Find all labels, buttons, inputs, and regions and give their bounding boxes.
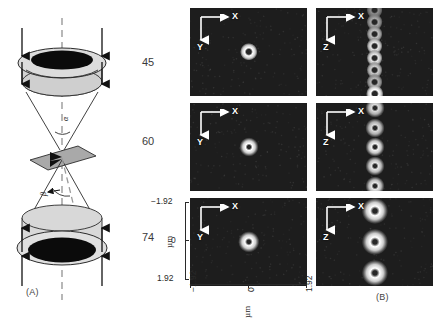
psf-image-45-xz: XZ (316, 8, 433, 96)
psf-image-45-xy: XY (190, 8, 307, 96)
y-axis-unit: µm (164, 236, 174, 248)
lens-schematic-svg: α β (0, 0, 180, 329)
aperture-label-74: 74 (142, 231, 154, 243)
bottom-objective-lens (17, 205, 107, 265)
x-tick-max: 1.92 (304, 275, 314, 292)
psf-image-60-xy: XY (190, 103, 307, 191)
psf-spot (365, 138, 384, 157)
sample-plane (30, 146, 96, 170)
aperture-label-60: 60 (142, 135, 154, 147)
psf-image-60-xz: XZ (316, 103, 433, 191)
panel-b-psf-grid: XYXZXYXZXYXZ −1.92 0 1.92 µm −1.92 0 1.9… (180, 0, 425, 329)
psf-spot (239, 138, 258, 157)
beta-label: β (39, 192, 48, 197)
panel-b-tag: (B) (376, 292, 389, 302)
panel-a-schematic: α β (0, 0, 180, 329)
psf-spot (365, 118, 384, 137)
psf-spot (365, 157, 384, 176)
y-tick-min: −1.92 (151, 196, 173, 206)
x-axis-unit: µm (242, 306, 252, 318)
top-objective-lens (18, 48, 106, 96)
psf-image-74-xy: XY (190, 198, 307, 286)
beta-angle-marker: β (39, 188, 70, 197)
panel-a-tag: (A) (26, 287, 39, 297)
aperture-label-45: 45 (142, 56, 154, 68)
y-tick-max: 1.92 (157, 273, 174, 283)
x-tick-mid: 0 (246, 287, 256, 292)
psf-spot (365, 176, 384, 191)
x-tick-min: −1.92 (188, 270, 198, 292)
psf-image-74-xz: XZ (316, 198, 433, 286)
